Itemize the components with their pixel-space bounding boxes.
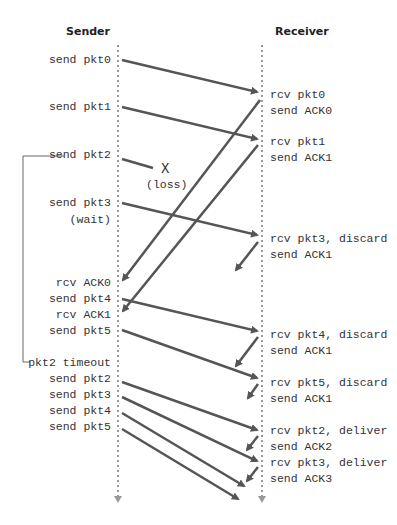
arrow-pkt5 xyxy=(122,330,257,378)
arrow-pkt4 xyxy=(122,299,257,331)
receiver-event: send ACK1 xyxy=(270,151,332,165)
sender-event: rcv ACK0 xyxy=(56,276,111,290)
sender-lifeline xyxy=(114,45,122,503)
arrow-ack1 xyxy=(123,145,258,311)
sender-event: send pkt1 xyxy=(49,100,111,114)
receiver-event: rcv pkt3, discard xyxy=(270,232,387,246)
sender-event: send pkt5 xyxy=(49,324,111,338)
arrow-ack1-dup2 xyxy=(236,337,258,366)
arrow-pkt5-resend xyxy=(122,429,238,499)
receiver-event: send ACK1 xyxy=(270,344,332,358)
sender-event: send pkt4 xyxy=(49,292,111,306)
receiver-lifeline xyxy=(258,45,266,503)
receiver-event: send ACK2 xyxy=(270,440,332,454)
receiver-event: send ACK0 xyxy=(270,104,332,118)
receiver-event: send ACK1 xyxy=(270,392,332,406)
receiver-event: rcv pkt1 xyxy=(270,135,325,149)
arrow-pkt0 xyxy=(122,60,257,92)
sender-event: (wait) xyxy=(70,213,111,227)
sender-event: send pkt3 xyxy=(49,196,111,210)
arrow-pkt1 xyxy=(122,107,257,139)
arrow-ack0 xyxy=(123,100,260,280)
sender-event: send pkt4 xyxy=(49,404,111,418)
loss-x-mark: X xyxy=(161,162,169,176)
receiver-event: send ACK3 xyxy=(270,472,332,486)
receiver-event: rcv pkt5, discard xyxy=(270,376,387,390)
sender-event: send pkt3 xyxy=(49,388,111,402)
arrow-ack2 xyxy=(247,436,258,450)
sender-event: send pkt2 xyxy=(49,148,111,162)
receiver-event: rcv pkt4, discard xyxy=(270,328,387,342)
receiver-event: rcv pkt2, deliver xyxy=(270,424,387,438)
arrow-ack1-dup3 xyxy=(248,384,258,398)
sender-event: pkt2 timeout xyxy=(28,356,111,370)
receiver-event: rcv pkt0 xyxy=(270,88,325,102)
receiver-event: rcv pkt3, deliver xyxy=(270,456,387,470)
sender-event: send pkt5 xyxy=(49,420,111,434)
sender-event: send pkt0 xyxy=(49,53,111,67)
sender-event: rcv ACK1 xyxy=(56,308,111,322)
sequence-diagram-canvas xyxy=(0,0,397,525)
loss-label: (loss) xyxy=(146,178,187,192)
sender-event: send pkt2 xyxy=(49,372,111,386)
receiver-event: send ACK1 xyxy=(270,248,332,262)
arrow-ack3 xyxy=(247,467,258,481)
arrow-pkt2-lost xyxy=(122,159,153,168)
arrow-ack1-dup1 xyxy=(236,242,258,270)
arrow-pkt4-resend xyxy=(122,413,244,486)
